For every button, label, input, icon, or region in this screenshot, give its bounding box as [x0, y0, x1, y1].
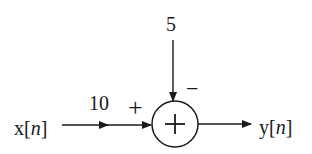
- subtracted-input-label: 5: [166, 13, 176, 35]
- summing-junction: [152, 101, 198, 147]
- output-signal-label: y[n]: [259, 116, 292, 139]
- gain-label: 10: [89, 92, 109, 114]
- block-diagram: x[n] 10 + 5 − y[n]: [0, 0, 312, 154]
- minus-sign-top: −: [186, 76, 198, 101]
- plus-sign-left: +: [128, 93, 143, 122]
- input-signal-label: x[n]: [14, 117, 47, 139]
